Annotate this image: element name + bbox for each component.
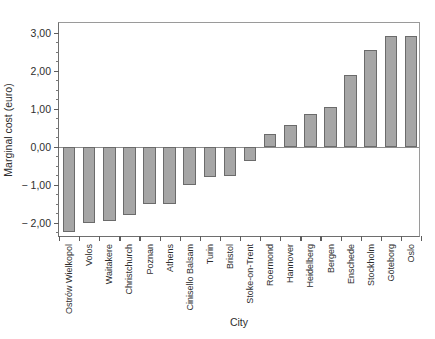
x-axis-tick [79, 236, 80, 241]
x-axis-tick [260, 236, 261, 241]
y-axis-title-text: Marginal cost (euro) [2, 83, 14, 176]
y-axis-minor-tick [56, 128, 59, 129]
x-axis-tick-label-text: Stockholm [366, 244, 376, 286]
x-axis-tick-label-text: Heidelberg [305, 244, 315, 288]
bar [405, 36, 417, 146]
x-axis-tick [381, 236, 382, 241]
x-axis-tick [361, 236, 362, 241]
bar [264, 134, 276, 146]
x-axis-tick [300, 236, 301, 241]
x-axis-tick [220, 236, 221, 241]
bar [123, 147, 135, 215]
y-axis-minor-tick [56, 99, 59, 100]
x-axis-tick-label-text: Enschede [346, 244, 356, 284]
y-axis-minor-tick [56, 194, 59, 195]
y-axis-minor-tick [56, 118, 59, 119]
x-axis-tick-label-text: Turin [205, 244, 215, 264]
x-axis-tick [200, 236, 201, 241]
y-axis-minor-tick [56, 232, 59, 233]
x-axis-tick-label-text: Bristol [225, 244, 235, 269]
y-axis-tick [54, 33, 59, 34]
x-axis-tick [59, 236, 60, 241]
y-axis-tick [54, 147, 59, 148]
x-axis-tick-label-text: Athens [165, 244, 175, 272]
x-axis-tick-label-text: Oslo [406, 244, 416, 263]
x-axis-tick [240, 236, 241, 241]
y-axis-tick [54, 185, 59, 186]
bar [163, 147, 175, 204]
x-axis-tick-label-text: Hannover [285, 244, 295, 283]
y-axis-minor-tick [56, 90, 59, 91]
y-axis-minor-tick [56, 61, 59, 62]
x-axis-tick-label-text: Volos [84, 244, 94, 266]
y-axis-minor-tick [56, 156, 59, 157]
plot-area: 3,002,001,000,00− 1,00− 2,00 Ostrów Wiel… [58, 22, 420, 237]
y-axis-minor-tick [56, 213, 59, 214]
y-axis-minor-tick [56, 137, 59, 138]
x-axis-tick-label-text: Stoke-on-Trent [245, 244, 255, 304]
x-axis-tick-label-text: Göteborg [386, 244, 396, 282]
y-axis-tick-label: 2,00 [31, 65, 51, 77]
bar [183, 147, 195, 185]
x-axis-tick [421, 236, 422, 241]
y-axis-tick-label: 3,00 [31, 27, 51, 39]
y-axis-title: Marginal cost (euro) [0, 22, 16, 237]
x-axis-tick-label-text: Ostrów Wielkopol [64, 244, 74, 314]
x-axis-tick-label-text: Waitakere [104, 244, 114, 284]
x-axis-tick [280, 236, 281, 241]
bar [385, 36, 397, 146]
y-axis-tick-label: 1,00 [31, 103, 51, 115]
x-axis-tick-label-text: Cinisello Balsam [185, 244, 195, 311]
x-axis-title: City [58, 316, 420, 328]
x-axis-tick [139, 236, 140, 241]
x-axis-tick-label-text: Roermond [265, 244, 275, 286]
bar [284, 125, 296, 147]
x-axis-tick [320, 236, 321, 241]
y-axis-minor-tick [56, 42, 59, 43]
y-axis-minor-tick [56, 80, 59, 81]
bar [344, 75, 356, 147]
y-axis-tick-label: − 2,00 [22, 217, 52, 229]
bar [204, 147, 216, 177]
x-axis-tick [119, 236, 120, 241]
bar [224, 147, 236, 177]
y-axis-tick [54, 223, 59, 224]
y-axis-minor-tick [56, 175, 59, 176]
bar [143, 147, 155, 204]
x-axis-tick [99, 236, 100, 241]
bar [103, 147, 115, 221]
y-axis-minor-tick [56, 204, 59, 205]
y-axis-tick [54, 71, 59, 72]
bar [63, 147, 75, 233]
marginal-cost-bar-chart: Marginal cost (euro) 3,002,001,000,00− 1… [0, 0, 435, 339]
y-axis-tick [54, 109, 59, 110]
y-axis-tick-label: 0,00 [31, 141, 51, 153]
bar [324, 107, 336, 147]
y-axis-minor-tick [56, 166, 59, 167]
x-axis-tick [401, 236, 402, 241]
bar [364, 50, 376, 147]
x-axis-tick [180, 236, 181, 241]
x-axis-tick [341, 236, 342, 241]
bar [244, 147, 256, 161]
y-axis-tick-label: − 1,00 [22, 179, 52, 191]
x-axis-tick-label-text: Christchurch [124, 244, 134, 295]
y-axis-minor-tick [56, 52, 59, 53]
x-axis-tick [160, 236, 161, 241]
bar [83, 147, 95, 223]
x-axis-tick-label-text: Poznan [145, 244, 155, 275]
x-axis-tick-label-text: Bergen [326, 244, 336, 273]
bar [304, 114, 316, 146]
